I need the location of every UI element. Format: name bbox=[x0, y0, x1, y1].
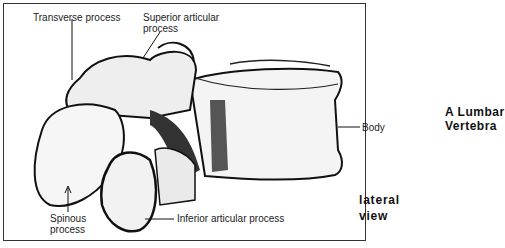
label-spinous-1: Spinous bbox=[50, 213, 86, 224]
figure-title-1: A Lumbar bbox=[445, 105, 505, 119]
label-transverse-process: Transverse process bbox=[33, 12, 120, 23]
view-caption-1: lateral bbox=[359, 192, 400, 208]
vertebra-illustration bbox=[0, 0, 505, 248]
figure-title-2: Vertebra bbox=[445, 119, 497, 133]
label-inferior-articular: Inferior articular process bbox=[177, 213, 284, 224]
label-body: Body bbox=[362, 122, 385, 133]
view-caption-2: view bbox=[359, 208, 388, 224]
label-superior-articular-2: process bbox=[143, 23, 178, 34]
label-spinous-2: process bbox=[50, 224, 85, 235]
label-superior-articular-1: Superior articular bbox=[143, 12, 219, 23]
